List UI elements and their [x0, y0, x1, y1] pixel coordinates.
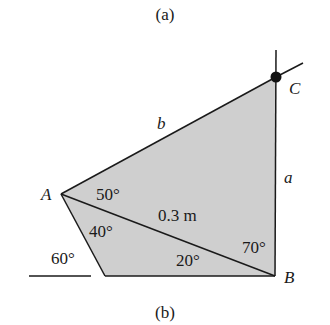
- label-side-a: a: [284, 168, 293, 187]
- caption-a: (a): [156, 5, 175, 24]
- label-point-c: C: [289, 79, 301, 98]
- caption-b: (b): [155, 303, 175, 322]
- triangle-diagram: (a) (b) A B C b a 0.3 m 50° 40° 60° 20° …: [0, 0, 330, 325]
- label-angle-60: 60°: [51, 249, 75, 268]
- label-angle-40: 40°: [89, 222, 113, 241]
- label-angle-50: 50°: [96, 185, 120, 204]
- label-angle-20: 20°: [176, 251, 200, 270]
- side-a: [275, 50, 276, 276]
- label-side-b: b: [157, 114, 166, 133]
- label-point-b: B: [284, 268, 295, 287]
- diagram-canvas: (a) (b) A B C b a 0.3 m 50° 40° 60° 20° …: [0, 0, 330, 325]
- label-point-a: A: [40, 185, 52, 204]
- label-length-ab: 0.3 m: [158, 206, 197, 225]
- joint-c-icon: [271, 72, 282, 83]
- label-angle-70: 70°: [242, 238, 266, 257]
